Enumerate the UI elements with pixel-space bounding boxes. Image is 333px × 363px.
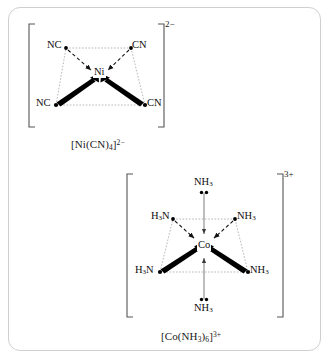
cobalt-complex-charge: 3+	[284, 169, 294, 179]
ligand-label-nh3-axial-bottom: NH3	[194, 303, 213, 314]
h3n-lower-left-subscript: 3	[143, 268, 147, 276]
nickel-wedge-bonds	[57, 74, 145, 107]
nickel-right-bracket	[158, 24, 164, 127]
h3n-upper-left-subscript: 3	[159, 214, 163, 222]
nh3-lower-right-subscript: 3	[265, 268, 269, 276]
ligand-label-cn-upper-right: CN	[132, 40, 147, 51]
metal-center-label-ni: Ni	[93, 67, 106, 78]
cobalt-left-bracket	[127, 174, 133, 317]
nickel-left-bracket	[29, 24, 35, 127]
ligand-label-h3n-lower-left: H3N	[135, 265, 154, 276]
ligand-label-nc-upper-left: NC	[47, 40, 62, 51]
metal-center-label-co: Co	[197, 240, 211, 251]
cobalt-caption-sup: 3+	[213, 330, 221, 339]
nh3-bottom-subscript: 3	[209, 306, 213, 314]
ligand-label-nh3-upper-right: NH3	[237, 211, 256, 222]
nh3-top-subscript: 3	[209, 180, 213, 188]
nickel-complex-caption: [Ni(CN)4]2−	[71, 138, 125, 152]
ligand-label-nh3-axial-top: NH3	[194, 177, 213, 188]
nh3-upper-right-subscript: 3	[252, 214, 256, 222]
ligand-label-h3n-upper-left: H3N	[151, 211, 170, 222]
cobalt-right-bracket	[277, 174, 283, 317]
ligand-label-nh3-lower-right: NH3	[250, 265, 269, 276]
nickel-complex-charge: 2−	[165, 19, 175, 29]
structures-canvas	[0, 0, 333, 363]
ligand-label-cn-lower-right: CN	[147, 98, 162, 109]
cobalt-complex-caption: [Co(NH3)6]3+	[161, 330, 221, 344]
nickel-caption-sup: 2−	[117, 138, 125, 147]
ligand-label-nc-lower-left: NC	[36, 98, 51, 109]
